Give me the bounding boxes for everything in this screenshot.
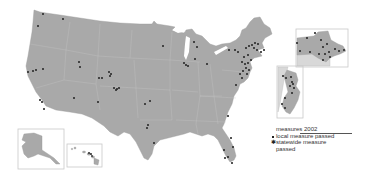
measure-marker bbox=[183, 62, 185, 64]
measure-marker bbox=[228, 49, 230, 51]
measure-marker bbox=[281, 103, 283, 105]
measure-marker bbox=[231, 162, 233, 164]
measure-marker bbox=[98, 77, 100, 79]
measure-marker bbox=[243, 56, 245, 58]
measure-marker bbox=[241, 77, 243, 79]
measure-marker bbox=[108, 71, 110, 73]
legend-label-statewide: statewide measure passed bbox=[276, 139, 328, 152]
alaska bbox=[22, 133, 60, 164]
measure-marker bbox=[256, 49, 258, 51]
measure-marker bbox=[343, 49, 345, 51]
measure-marker bbox=[257, 43, 259, 45]
measure-marker bbox=[110, 73, 112, 75]
measure-marker bbox=[109, 75, 111, 77]
measure-marker bbox=[78, 61, 80, 63]
measure-marker bbox=[263, 49, 265, 51]
measure-marker bbox=[326, 43, 328, 45]
measure-marker bbox=[97, 101, 99, 103]
measure-marker bbox=[224, 157, 226, 159]
measure-marker bbox=[296, 42, 298, 44]
measure-marker bbox=[185, 64, 187, 66]
measure-marker bbox=[193, 41, 195, 43]
measure-marker bbox=[242, 70, 244, 72]
measure-marker bbox=[115, 89, 117, 91]
measure-marker bbox=[292, 83, 294, 85]
measure-marker bbox=[250, 59, 252, 61]
measure-marker bbox=[328, 51, 330, 53]
measure-marker bbox=[146, 127, 148, 129]
measure-marker bbox=[144, 103, 146, 105]
measure-marker bbox=[293, 87, 295, 89]
measure-marker bbox=[248, 69, 250, 71]
measure-marker bbox=[322, 59, 324, 61]
measure-marker bbox=[338, 50, 340, 52]
legend-item-statewide: ✱ statewide measure passed bbox=[270, 139, 328, 152]
measure-marker bbox=[237, 51, 239, 53]
measure-marker bbox=[245, 47, 247, 49]
measure-marker bbox=[253, 47, 255, 49]
measure-marker bbox=[290, 76, 292, 78]
measure-marker bbox=[196, 46, 198, 48]
measure-marker bbox=[73, 97, 75, 99]
measure-marker bbox=[291, 81, 293, 83]
measure-marker bbox=[230, 137, 232, 139]
measure-marker bbox=[282, 75, 284, 77]
measure-marker bbox=[299, 50, 301, 52]
measure-marker bbox=[41, 101, 43, 103]
measure-marker bbox=[153, 142, 155, 144]
measure-marker bbox=[43, 108, 45, 110]
measure-marker bbox=[79, 66, 81, 68]
measure-marker bbox=[285, 77, 287, 79]
measure-marker bbox=[194, 58, 196, 60]
measure-marker bbox=[309, 51, 311, 53]
hawaii bbox=[71, 147, 99, 165]
measure-marker bbox=[245, 67, 247, 69]
measure-marker bbox=[235, 84, 237, 86]
measure-marker bbox=[334, 48, 336, 50]
measure-marker bbox=[113, 87, 115, 89]
measure-marker bbox=[149, 100, 151, 102]
measure-marker bbox=[62, 18, 64, 20]
measure-marker bbox=[223, 149, 225, 151]
measure-marker bbox=[227, 115, 229, 117]
measure-marker bbox=[39, 99, 41, 101]
measure-marker bbox=[27, 71, 29, 73]
legend: measures 2002 local measure passed ✱ sta… bbox=[270, 126, 334, 152]
measure-marker bbox=[118, 87, 120, 89]
measure-marker bbox=[42, 13, 44, 15]
measure-marker bbox=[206, 63, 208, 65]
measure-marker bbox=[247, 62, 249, 64]
measure-marker bbox=[37, 25, 39, 27]
contiguous-us bbox=[26, 10, 272, 162]
measure-marker bbox=[284, 97, 286, 99]
measure-marker bbox=[241, 61, 243, 63]
measure-marker bbox=[289, 85, 291, 87]
measure-marker bbox=[320, 39, 322, 41]
measure-marker bbox=[227, 156, 229, 158]
measure-marker bbox=[248, 45, 250, 47]
measure-marker bbox=[32, 70, 34, 72]
measure-marker bbox=[329, 56, 331, 58]
measure-marker bbox=[284, 107, 286, 109]
measure-marker bbox=[324, 53, 326, 55]
measure-marker bbox=[244, 63, 246, 65]
measure-marker bbox=[254, 42, 256, 44]
measure-marker bbox=[101, 77, 103, 79]
measure-marker bbox=[239, 73, 241, 75]
measure-marker bbox=[234, 49, 236, 51]
measure-marker bbox=[162, 45, 164, 47]
measure-marker bbox=[187, 65, 189, 67]
legend-rule bbox=[300, 133, 352, 134]
measure-marker bbox=[260, 51, 262, 53]
measure-marker bbox=[251, 44, 253, 46]
measure-marker bbox=[35, 69, 37, 71]
measure-marker bbox=[314, 32, 316, 34]
measure-marker bbox=[42, 68, 44, 70]
measure-marker bbox=[306, 37, 308, 39]
measure-marker bbox=[232, 146, 234, 148]
measure-marker bbox=[291, 92, 293, 94]
measure-marker bbox=[147, 124, 149, 126]
measure-marker bbox=[318, 53, 320, 55]
measure-marker bbox=[246, 73, 248, 75]
measure-marker bbox=[247, 54, 249, 56]
